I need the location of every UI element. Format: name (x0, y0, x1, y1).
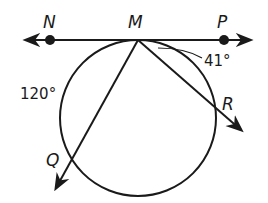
label-q: Q (46, 150, 59, 170)
ray-mq (56, 40, 138, 188)
point-p (219, 35, 229, 45)
circle (60, 40, 216, 196)
geometry-diagram: N M P R Q 120° 41° (0, 0, 268, 203)
label-n: N (43, 12, 56, 32)
point-n (45, 35, 55, 45)
label-r: R (222, 94, 234, 114)
label-p: P (217, 12, 228, 32)
angle-measure-41: 41° (204, 52, 231, 70)
arc-measure-120: 120° (20, 85, 56, 103)
label-m: M (128, 12, 143, 32)
